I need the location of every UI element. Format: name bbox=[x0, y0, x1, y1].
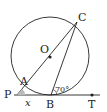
point-t-dot bbox=[90, 93, 93, 96]
label-a: A bbox=[19, 75, 29, 88]
label-c: C bbox=[78, 11, 86, 24]
label-angle-x: x bbox=[25, 97, 31, 108]
label-angle-70: 70° bbox=[55, 85, 69, 94]
geometry-diagram: C O A P B T 70° x bbox=[0, 0, 107, 112]
label-p: P bbox=[4, 88, 12, 101]
label-o: O bbox=[40, 43, 49, 56]
label-t: T bbox=[88, 98, 96, 111]
label-b: B bbox=[46, 98, 54, 111]
